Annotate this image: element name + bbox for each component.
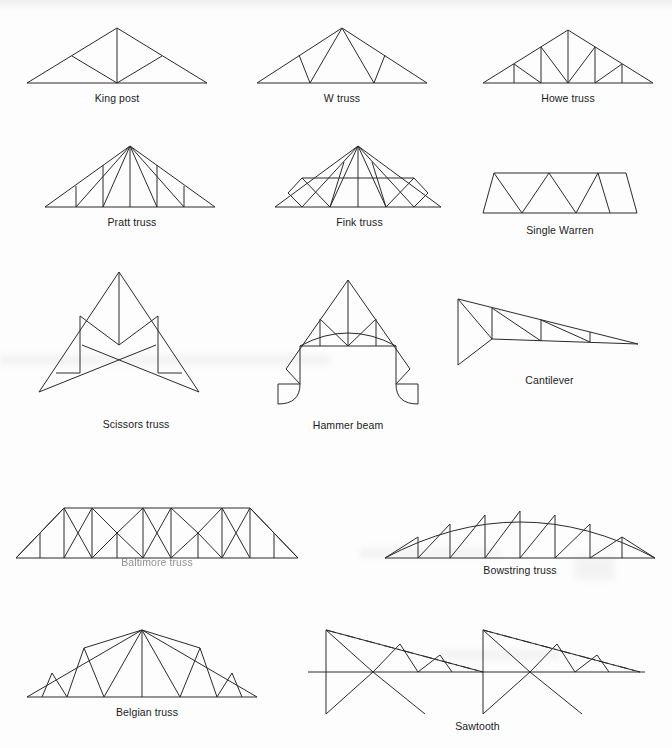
truss-label-belgian: Belgian truss xyxy=(22,706,272,718)
belgian-truss-drawing xyxy=(22,626,272,702)
w-truss-drawing xyxy=(252,24,432,88)
truss-label-baltimore: Baltimore truss xyxy=(12,556,302,568)
cantilever-drawing xyxy=(452,292,647,372)
pratt-truss-drawing xyxy=(42,142,222,212)
truss-label-cantilever: Cantilever xyxy=(452,374,647,386)
truss-belgian: Belgian truss xyxy=(22,626,272,718)
fink-truss-drawing xyxy=(272,142,447,212)
bowstring-truss-drawing xyxy=(380,504,660,566)
truss-label-pratt: Pratt truss xyxy=(42,216,222,228)
truss-scissors: Scissors truss xyxy=(36,268,236,433)
truss-label-sawtooth: Sawtooth xyxy=(300,720,655,732)
truss-king-post: King post xyxy=(22,24,212,108)
truss-label-howe: Howe truss xyxy=(478,92,658,104)
baltimore-truss-drawing xyxy=(12,502,302,564)
howe-truss-drawing xyxy=(478,26,658,88)
truss-chart-page: King post W truss Howe truss xyxy=(0,0,672,748)
truss-label-scissors: Scissors truss xyxy=(36,418,236,430)
scissors-truss-drawing xyxy=(36,268,236,408)
hammer-beam-drawing xyxy=(258,276,438,411)
scan-edge-shadow-top xyxy=(0,0,672,10)
truss-bowstring: Bowstring truss xyxy=(380,504,660,582)
truss-pratt: Pratt truss xyxy=(42,142,222,232)
truss-label-w-truss: W truss xyxy=(252,92,432,104)
truss-single-warren: Single Warren xyxy=(480,168,640,232)
sawtooth-drawing xyxy=(300,622,655,717)
truss-howe: Howe truss xyxy=(478,26,658,108)
king-post-drawing xyxy=(22,24,212,88)
truss-label-bowstring: Bowstring truss xyxy=(380,564,660,576)
truss-sawtooth: Sawtooth xyxy=(300,622,655,727)
truss-label-king-post: King post xyxy=(22,92,212,104)
truss-label-fink: Fink truss xyxy=(272,216,447,228)
truss-fink: Fink truss xyxy=(272,142,447,232)
single-warren-drawing xyxy=(480,168,640,218)
truss-hammer-beam: Hammer beam xyxy=(258,276,438,434)
truss-label-hammer-beam: Hammer beam xyxy=(258,419,438,431)
truss-baltimore: Baltimore truss xyxy=(12,502,302,580)
truss-label-single-warren: Single Warren xyxy=(480,224,640,236)
truss-cantilever: Cantilever xyxy=(452,292,647,387)
truss-w-truss: W truss xyxy=(252,24,432,108)
